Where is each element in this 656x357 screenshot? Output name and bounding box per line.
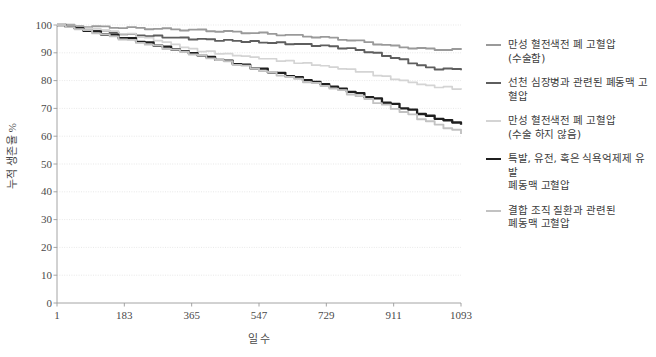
x-axis-title: 일 수	[199, 330, 319, 346]
legend-item-3[interactable]: 특발, 유전, 혹은 식욕억제제 유발 폐동맥 고혈압	[486, 152, 654, 193]
x-tick-label-365: 365	[183, 310, 200, 321]
legend-swatch-1	[486, 82, 501, 84]
chart-legend: 만성 혈전색전 폐 고혈압 (수술함)선천 심장병과 관련된 폐동맥 고혈압만성…	[486, 38, 654, 242]
legend-swatch-2	[486, 120, 501, 122]
x-tick-label-1093: 1093	[450, 310, 472, 321]
legend-swatch-0	[486, 44, 501, 46]
x-tick-label-1: 1	[54, 310, 60, 321]
legend-label-0: 만성 혈전색전 폐 고혈압 (수술함)	[508, 38, 615, 65]
legend-label-1: 선천 심장병과 관련된 폐동맥 고혈압	[508, 76, 654, 103]
x-tick-label-547: 547	[251, 310, 268, 321]
x-tick-label-183: 183	[116, 310, 133, 321]
x-tick-label-911: 911	[386, 310, 402, 321]
legend-label-4: 결합 조직 질환과 관련된 폐동맥 고혈압	[508, 204, 615, 231]
legend-item-0[interactable]: 만성 혈전색전 폐 고혈압 (수술함)	[486, 38, 654, 65]
legend-item-2[interactable]: 만성 혈전색전 폐 고혈압 (수술 하지 않음)	[486, 114, 654, 141]
legend-label-2: 만성 혈전색전 폐 고혈압 (수술 하지 않음)	[508, 114, 615, 141]
x-tick-label-729: 729	[318, 310, 335, 321]
legend-item-4[interactable]: 결합 조직 질환과 관련된 폐동맥 고혈압	[486, 204, 654, 231]
legend-swatch-3	[486, 158, 501, 160]
legend-swatch-4	[486, 210, 501, 212]
legend-item-1[interactable]: 선천 심장병과 관련된 폐동맥 고혈압	[486, 76, 654, 103]
survival-chart: 0102030405060708090100 누적 생존율 % 11833655…	[0, 0, 656, 357]
legend-label-3: 특발, 유전, 혹은 식욕억제제 유발 폐동맥 고혈압	[508, 152, 654, 193]
